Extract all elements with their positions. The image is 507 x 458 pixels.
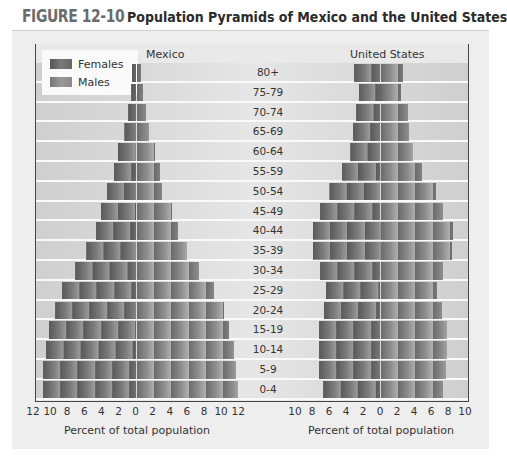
mexico-female-bar (75, 262, 137, 280)
age-group-label: 40-44 (238, 221, 298, 240)
age-group-label: 80+ (238, 63, 298, 82)
mexico-female-bar (43, 381, 136, 399)
legend-label-females: Females (78, 58, 124, 71)
mexico-female-bar (46, 341, 137, 359)
males-swatch (50, 77, 72, 87)
us-female-bar (359, 84, 380, 102)
us-female-bar (319, 361, 380, 379)
us-male-bar (381, 282, 438, 300)
mexico-female-bar (114, 163, 136, 181)
mexico-female-bar (86, 242, 136, 260)
mexico-male-bar (137, 381, 239, 399)
mexico-male-bar (137, 183, 163, 201)
us-x-tick: 10 (455, 405, 475, 417)
age-group-label: 70-74 (238, 103, 298, 122)
females-swatch (50, 59, 72, 69)
us-male-bar (381, 123, 410, 141)
us-male-bar (381, 321, 447, 339)
mexico-male-bar (137, 321, 229, 339)
age-group-label: 5-9 (238, 360, 298, 379)
age-group-label: 10-14 (238, 340, 298, 359)
mexico-male-bar (137, 302, 224, 320)
us-male-bar (381, 64, 403, 82)
figure-title: FIGURE 12-10 Population Pyramids of Mexi… (22, 6, 120, 28)
us-label: United States (350, 48, 425, 61)
us-female-bar (356, 104, 381, 122)
mexico-female-bar (49, 321, 136, 339)
mexico-female-bar (55, 302, 136, 320)
us-male-bar (381, 163, 423, 181)
mexico-label: Mexico (146, 48, 184, 61)
legend-label-males: Males (78, 76, 110, 89)
us-female-bar (319, 341, 380, 359)
us-male-bar (381, 183, 436, 201)
legend: Females Males (42, 50, 138, 95)
age-group-label: 75-79 (238, 83, 298, 102)
mexico-x-tick: 12 (228, 405, 248, 417)
us-male-bar (381, 341, 447, 359)
us-male-bar (381, 302, 442, 320)
figure-number: FIGURE 12-10 (22, 6, 102, 26)
mexico-male-bar (137, 203, 172, 221)
us-female-bar (313, 222, 381, 240)
mexico-female-bar (96, 222, 136, 240)
mexico-male-bar (137, 143, 156, 161)
mexico-male-bar (137, 84, 144, 102)
mexico-female-bar (62, 282, 136, 300)
us-male-bar (381, 361, 446, 379)
us-male-bar (381, 143, 413, 161)
mexico-male-bar (137, 64, 141, 82)
mexico-female-bar (107, 183, 136, 201)
age-group-label: 55-59 (238, 162, 298, 181)
age-group-label: 45-49 (238, 202, 298, 221)
us-male-bar (381, 104, 408, 122)
us-male-bar (381, 381, 443, 399)
mexico-female-bar (124, 123, 137, 141)
us-male-bar (381, 262, 444, 280)
us-female-bar (324, 302, 380, 320)
mexico-male-bar (137, 262, 199, 280)
us-female-bar (342, 163, 380, 181)
mexico-female-bar (128, 104, 137, 122)
us-female-bar (329, 183, 381, 201)
age-group-label: 0-4 (238, 380, 298, 399)
us-female-bar (350, 143, 381, 161)
mexico-female-bar (101, 203, 136, 221)
mexico-male-bar (137, 123, 150, 141)
legend-item-males: Males (50, 74, 110, 90)
mexico-male-bar (137, 341, 234, 359)
mexico-female-bar (118, 143, 137, 161)
us-female-bar (319, 321, 380, 339)
us-male-bar (381, 222, 453, 240)
us-male-bar (381, 203, 444, 221)
mexico-male-bar (137, 163, 160, 181)
age-group-label: 30-34 (238, 261, 298, 280)
us-female-bar (320, 203, 380, 221)
age-group-label: 15-19 (238, 320, 298, 339)
mexico-male-bar (137, 104, 146, 122)
mexico-x-axis-label: Percent of total population (37, 424, 237, 437)
mexico-male-bar (137, 242, 187, 260)
age-group-label: 60-64 (238, 142, 298, 161)
mexico-female-bar (43, 361, 136, 379)
us-female-bar (353, 123, 380, 141)
us-male-bar (381, 242, 452, 260)
age-group-label: 35-39 (238, 241, 298, 260)
legend-item-females: Females (50, 56, 124, 72)
us-male-bar (381, 84, 401, 102)
us-female-bar (323, 381, 381, 399)
age-group-label: 65-69 (238, 122, 298, 141)
us-female-bar (320, 262, 380, 280)
figure-caption: Population Pyramids of Mexico and the Un… (127, 9, 507, 25)
age-group-label: 20-24 (238, 301, 298, 320)
age-group-label: 50-54 (238, 182, 298, 201)
us-female-bar (354, 64, 380, 82)
mexico-male-bar (137, 222, 179, 240)
us-x-axis-label: Percent of total population (281, 424, 481, 437)
us-female-bar (326, 282, 380, 300)
us-female-bar (313, 242, 381, 260)
age-group-label: 25-29 (238, 281, 298, 300)
mexico-male-bar (137, 361, 236, 379)
mexico-male-bar (137, 282, 215, 300)
